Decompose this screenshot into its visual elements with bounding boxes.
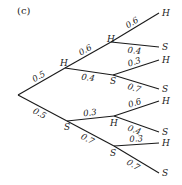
outcome-label: H — [161, 55, 170, 65]
probability-label: 0.5 — [30, 69, 47, 84]
probability-label: 0.6 — [77, 42, 94, 58]
probability-label: 0.4 — [127, 45, 141, 56]
probability-tree-diagram: (c) 0.5H0.6H0.6H0.4S0.4S0.3H0.7S0.5S0.3H… — [0, 0, 182, 185]
outcome-label: H — [161, 96, 170, 106]
outcome-label: S — [162, 168, 168, 178]
outcome-label: S — [162, 127, 168, 137]
node-label: H — [106, 34, 115, 44]
probability-label: 0.4 — [81, 72, 96, 84]
outcome-label: S — [162, 84, 168, 94]
node-label: S — [110, 76, 116, 86]
outcome-label: H — [161, 8, 170, 18]
probability-label: 0.3 — [129, 133, 143, 144]
node-label: H — [109, 118, 118, 128]
outcome-label: S — [162, 42, 168, 52]
node-label: S — [110, 148, 116, 158]
node-label: H — [59, 58, 68, 68]
probability-label: 0.3 — [83, 107, 98, 118]
probability-label: 0.5 — [31, 106, 48, 121]
probability-label: 0.7 — [79, 131, 96, 146]
node-label: S — [64, 122, 70, 132]
probability-label: 0.7 — [125, 157, 142, 173]
figure-caption: (c) — [17, 5, 31, 16]
outcome-label: H — [161, 138, 170, 148]
probability-label: 0.6 — [124, 14, 141, 30]
